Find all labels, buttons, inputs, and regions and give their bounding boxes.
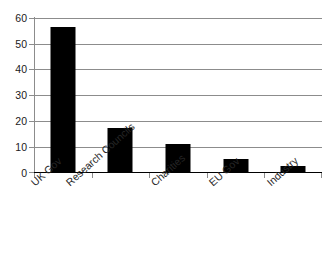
bar-slot-industry bbox=[264, 18, 322, 172]
y-tick-label-40: 40 bbox=[1, 64, 27, 75]
y-axis-tick-labels: 60 50 40 30 20 10 0 bbox=[0, 0, 27, 258]
plot-area bbox=[34, 18, 322, 172]
y-tick-label-30: 30 bbox=[1, 90, 27, 101]
x-tick-mark-5 bbox=[321, 173, 322, 178]
bar-slot-uk-gov bbox=[34, 18, 92, 172]
y-tick-label-50: 50 bbox=[1, 39, 27, 50]
bar-slot-eu-gov bbox=[207, 18, 265, 172]
y-tick-label-60: 60 bbox=[1, 13, 27, 24]
bar-chart: 60 50 40 30 20 10 0 bbox=[0, 0, 333, 258]
y-tick-label-0: 0 bbox=[1, 168, 27, 179]
y-tick-label-10: 10 bbox=[1, 142, 27, 153]
bar-uk-gov bbox=[50, 27, 75, 172]
y-tick-label-20: 20 bbox=[1, 116, 27, 127]
bar-slot-charities bbox=[149, 18, 207, 172]
x-tick-mark-1 bbox=[92, 173, 93, 178]
